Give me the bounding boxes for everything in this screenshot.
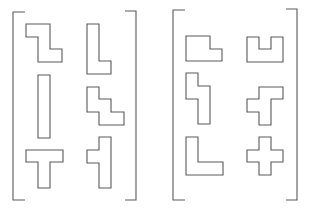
z-shape bbox=[26, 24, 62, 62]
t-shape bbox=[26, 150, 63, 188]
s-vertical-shape bbox=[186, 73, 210, 124]
right-panel bbox=[173, 9, 297, 200]
p-shape bbox=[186, 36, 222, 61]
i-bar bbox=[38, 75, 50, 138]
u-shape bbox=[247, 37, 283, 62]
plus-shape bbox=[247, 137, 283, 175]
left-panel bbox=[13, 11, 136, 200]
stair-shape bbox=[87, 87, 124, 125]
right-panel-right-bracket bbox=[286, 9, 297, 200]
f-shape bbox=[247, 87, 283, 125]
left-panel-left-bracket bbox=[13, 12, 25, 200]
l-shape-tall bbox=[87, 24, 111, 74]
shape-matrix-diagram bbox=[0, 0, 311, 211]
l-shape bbox=[186, 137, 223, 175]
left-panel-right-bracket bbox=[125, 11, 136, 200]
left-t-shape bbox=[87, 137, 111, 188]
right-panel-left-bracket bbox=[173, 10, 185, 200]
